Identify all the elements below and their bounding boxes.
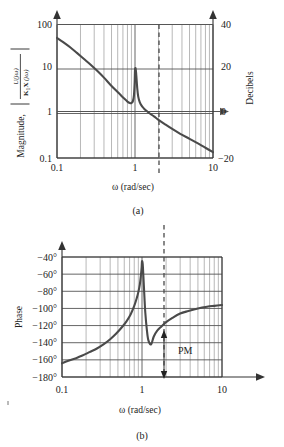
- phase-plot-panel: PM −40° −60° −80° −100° −120° −140° −160…: [0, 225, 284, 447]
- phase-xtick-0.1: 0.1: [56, 384, 69, 395]
- phase-xaxis-label: ω (rad/sec): [119, 405, 161, 416]
- magnitude-label-den-arg: (jω): [22, 69, 30, 81]
- phase-ytick-minus80: −80°: [37, 286, 57, 297]
- magnitude-ytick-1: 1: [47, 106, 52, 117]
- decibels-ytick-0: 0: [221, 106, 226, 117]
- phase-ytick-minus140: −140°: [32, 337, 57, 348]
- magnitude-axis-label-prefix: Magnitude,: [16, 114, 26, 158]
- magnitude-xtick-0.1: 0.1: [51, 162, 64, 173]
- caption-b: (b): [136, 430, 148, 442]
- caption-a: (a): [132, 205, 143, 217]
- phase-ytick-minus160: −160°: [32, 354, 57, 365]
- phase-margin-label: PM: [178, 345, 193, 356]
- magnitude-ytick-10: 10: [42, 61, 52, 72]
- magnitude-label-den-x: X: [22, 82, 30, 87]
- phase-x-axis-arrow: [256, 373, 265, 380]
- magnitude-y-axis-arrow: [53, 10, 61, 19]
- decibels-ytick-minus20: −20: [218, 153, 234, 164]
- phase-grid: [62, 257, 222, 377]
- bode-plot-figure: 100 10 1 0.1 40 20 0 −20 0.1 1 10 ω (rad…: [0, 0, 284, 447]
- magnitude-label-numerator: U(jω): [12, 68, 20, 85]
- phase-yaxis-label: Phase: [14, 306, 24, 328]
- phase-xtick-1: 1: [140, 384, 145, 395]
- magnitude-xtick-1: 1: [133, 162, 138, 173]
- magnitude-label-denominator: K 1 X (jω): [22, 69, 31, 96]
- phase-y-axis-arrow: [58, 241, 66, 250]
- magnitude-ytick-100: 100: [37, 19, 52, 30]
- phase-xtick-10: 10: [217, 384, 227, 395]
- phase-ytick-minus100: −100°: [32, 303, 57, 314]
- phase-ytick-minus60: −60°: [37, 269, 57, 280]
- decibels-axis-arrow: [209, 10, 217, 19]
- phase-ytick-minus180: −180°: [32, 372, 57, 383]
- decibels-axis-label: Decibels: [245, 71, 255, 105]
- phase-ytick-minus40: −40°: [37, 252, 57, 263]
- phase-ytick-minus120: −120°: [32, 320, 57, 331]
- decibels-ytick-20: 20: [221, 61, 231, 72]
- decibels-ytick-40: 40: [221, 19, 231, 30]
- magnitude-xtick-10: 10: [208, 162, 218, 173]
- magnitude-axis-label-group: Magnitude, U(jω) K 1 X (jω): [11, 49, 31, 158]
- magnitude-xaxis-label: ω (rad/sec): [112, 182, 154, 193]
- magnitude-plot-panel: 100 10 1 0.1 40 20 0 −20 0.1 1 10 ω (rad…: [0, 0, 284, 225]
